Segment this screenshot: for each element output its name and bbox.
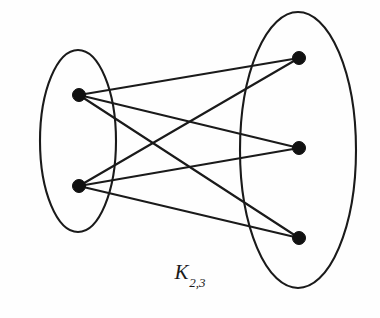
graph-vertex-v2: [293, 142, 306, 155]
graph-edges-group: [79, 58, 299, 238]
graph-vertex-u2: [73, 180, 86, 193]
graph-vertex-u1: [73, 89, 86, 102]
partition-ellipses-group: [40, 12, 356, 288]
graph-label: K2,3: [0, 262, 380, 286]
figure-container: K2,3: [0, 0, 380, 318]
graph-label-base: K: [175, 260, 190, 284]
partition-ellipse-left-part: [40, 50, 116, 232]
graph-edge-u2-v3: [79, 186, 299, 238]
graph-label-subscript: 2,3: [189, 275, 205, 290]
graph-vertex-v1: [293, 52, 306, 65]
graph-vertex-v3: [293, 232, 306, 245]
